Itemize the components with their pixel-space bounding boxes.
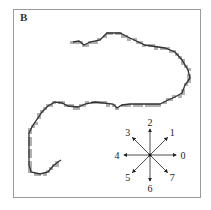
chain-cell — [106, 104, 110, 107]
direction-label-5: 5 — [125, 172, 130, 183]
direction-label-3: 3 — [125, 127, 130, 138]
direction-label-1: 1 — [170, 127, 175, 138]
direction-arrow-5 — [133, 155, 150, 172]
direction-label-7: 7 — [170, 172, 175, 183]
direction-label-6: 6 — [148, 183, 153, 194]
direction-arrow-7 — [150, 155, 167, 172]
contour-diagram: 01234567 — [0, 0, 211, 210]
direction-arrow-3 — [133, 138, 150, 155]
direction-label-4: 4 — [115, 150, 120, 161]
direction-compass: 01234567 — [115, 117, 186, 194]
direction-arrow-1 — [150, 138, 167, 155]
direction-label-2: 2 — [148, 117, 153, 128]
direction-label-0: 0 — [181, 150, 186, 161]
compass-center — [149, 154, 152, 157]
